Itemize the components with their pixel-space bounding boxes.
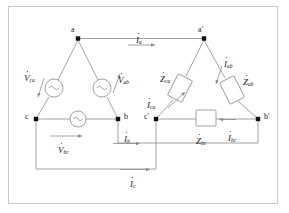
voltage-bc-subscript: bc [64,149,69,155]
current-c-subscript: c [133,183,135,189]
wire-ca-source-to-c [36,97,49,119]
current-ab-subscript: ab [227,63,233,69]
label-current-a: Ia [136,30,142,46]
impedance-bc-box [196,110,216,126]
label-voltage-ab: Vab [118,70,129,86]
wire-ap-to-zab [204,40,225,78]
voltage-ca-symbol: V [24,74,30,83]
wire-a-to-ab-source [78,40,98,80]
label-impedance-ca: Zca [160,69,170,85]
label-voltage-bc: Vbc [58,140,69,156]
current-bc-subscript: bc [231,137,236,143]
label-current-ca: Ica [147,95,155,111]
current-ca-subscript: ca [150,104,155,110]
node-dot-b [116,117,120,121]
voltage-ca-subscript: ca [30,77,35,83]
label-voltage-ca: Vca [24,68,35,84]
impedance-ca-subscript: ca [165,78,170,84]
arrow-current-ab [216,66,222,84]
voltage-bc-symbol: V [58,146,64,155]
node-label-b-prime: b' [264,113,269,121]
ac-sine-ab-icon [97,86,107,90]
node-label-b: b [124,113,128,121]
voltage-ab-subscript: ab [124,79,130,85]
current-a-symbol: I [136,36,139,45]
impedance-bc-subscript: bc [201,140,206,146]
voltage-ab-symbol: V [118,76,124,85]
node-label-a: a [71,26,75,34]
ac-sine-ca-icon [49,86,59,90]
arrow-voltage-ca [38,78,44,97]
label-current-bc: Ibc [228,128,236,144]
node-dot-ap [202,36,206,40]
current-a-subscript: a [139,39,142,45]
wire-a-to-ca-source [58,40,78,80]
node-dot-bp [256,117,260,121]
node-dot-a [76,36,80,40]
node-label-a-prime: a' [198,26,203,34]
ac-sine-bc-icon [74,117,83,120]
current-c-symbol: I [130,180,133,189]
node-dot-cp [154,117,158,121]
impedance-ab-symbol: Z [243,78,248,87]
impedance-ca-symbol: Z [160,75,165,84]
current-b-subscript: b [127,138,130,144]
current-bc-symbol: I [228,134,231,143]
label-current-ab: Iab [224,54,233,70]
impedance-ab-box [219,76,244,105]
current-ca-symbol: I [147,101,150,110]
impedance-ca-box [167,74,192,103]
label-impedance-bc: Zbc [196,131,206,147]
node-label-c: c [25,113,29,121]
impedance-ab-subscript: ab [248,81,254,87]
wire-ap-to-zca [186,40,204,76]
label-impedance-ab: Zab [243,72,254,88]
impedance-bc-symbol: Z [196,137,201,146]
wire-ab-source-to-b [107,97,118,119]
node-label-c-prime: c' [144,113,149,121]
circuit-schematic [0,0,289,213]
wire-zca-to-cp [156,100,173,119]
current-b-symbol: I [124,135,127,144]
figure-root: a b c a' b' c' Vca Vab Vbc Zca Zab Zbc I… [0,0,289,213]
label-current-b: Ib [124,129,130,145]
current-ab-symbol: I [224,60,227,69]
node-dot-c [34,117,38,121]
wire-zab-to-bp [238,101,258,119]
label-current-c: Ic [130,174,135,190]
